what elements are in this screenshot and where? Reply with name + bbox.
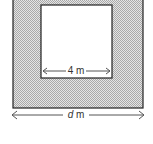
outer-dimension-label: d m [63,108,89,122]
outer-label-unit: m [76,109,84,120]
inner-label-text: 4 m [68,65,85,76]
inner-dimension-label: 4 m [66,64,86,78]
outer-label-variable: d [68,109,74,120]
